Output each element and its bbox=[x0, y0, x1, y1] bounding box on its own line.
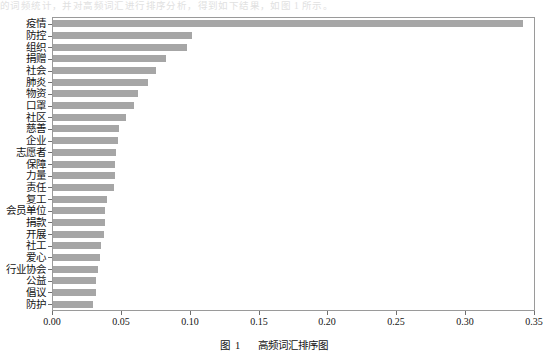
y-tick bbox=[48, 129, 52, 130]
bar-公益 bbox=[53, 277, 96, 284]
y-tick bbox=[48, 152, 52, 153]
bar-fill bbox=[53, 137, 118, 144]
y-axis-label-社工: 社工 bbox=[26, 240, 46, 251]
y-axis-label-捐款: 捐款 bbox=[26, 217, 46, 228]
x-axis-label-0.15: 0.15 bbox=[250, 316, 268, 327]
bar-力量 bbox=[53, 172, 115, 179]
bar-fill bbox=[53, 32, 192, 39]
bar-fill bbox=[53, 114, 126, 121]
x-axis-label-0.05: 0.05 bbox=[112, 316, 130, 327]
x-axis-label-0.30: 0.30 bbox=[456, 316, 474, 327]
y-tick bbox=[48, 246, 52, 247]
y-tick bbox=[48, 106, 52, 107]
y-axis-label-肺炎: 肺炎 bbox=[26, 77, 46, 88]
y-tick bbox=[48, 164, 52, 165]
bar-fill bbox=[53, 20, 523, 27]
bar-fill bbox=[53, 184, 114, 191]
y-tick bbox=[48, 47, 52, 48]
y-axis-label-物资: 物资 bbox=[26, 88, 46, 99]
figure-high-frequency-word-ranking: 疫情防控组织捐赠社会肺炎物资口罩社区慈善企业志愿者保障力量责任复工会员单位捐款开… bbox=[0, 0, 548, 357]
bar-fill bbox=[53, 67, 156, 74]
figure-caption: 图 1 高频词汇排序图 bbox=[0, 337, 548, 352]
y-axis: 疫情防控组织捐赠社会肺炎物资口罩社区慈善企业志愿者保障力量责任复工会员单位捐款开… bbox=[0, 18, 52, 310]
caption-prefix: 图 bbox=[220, 340, 230, 351]
y-tick bbox=[48, 292, 52, 293]
bar-防控 bbox=[53, 32, 192, 39]
x-tick bbox=[396, 311, 397, 315]
bar-企业 bbox=[53, 137, 118, 144]
bar-fill bbox=[53, 301, 93, 308]
y-axis-label-防控: 防控 bbox=[26, 30, 46, 41]
bar-口罩 bbox=[53, 102, 134, 109]
y-axis-label-企业: 企业 bbox=[26, 135, 46, 146]
y-tick bbox=[48, 176, 52, 177]
x-tick bbox=[259, 311, 260, 315]
y-axis-label-慈善: 慈善 bbox=[26, 123, 46, 134]
bar-组织 bbox=[53, 44, 187, 51]
y-axis-label-开展: 开展 bbox=[26, 229, 46, 240]
bar-行业协会 bbox=[53, 266, 98, 273]
x-axis-label-0.25: 0.25 bbox=[387, 316, 405, 327]
x-axis-label-0.35: 0.35 bbox=[525, 316, 543, 327]
y-tick bbox=[48, 304, 52, 305]
bar-志愿者 bbox=[53, 149, 116, 156]
y-axis-label-捐赠: 捐赠 bbox=[26, 53, 46, 64]
y-axis-label-疫情: 疫情 bbox=[26, 18, 46, 29]
y-tick bbox=[48, 94, 52, 95]
y-tick bbox=[48, 71, 52, 72]
x-tick bbox=[52, 311, 53, 315]
bar-会员单位 bbox=[53, 207, 105, 214]
bar-fill bbox=[53, 55, 166, 62]
x-axis-label-0.00: 0.00 bbox=[43, 316, 61, 327]
bar-fill bbox=[53, 79, 148, 86]
bar-fill bbox=[53, 219, 105, 226]
bar-fill bbox=[53, 207, 105, 214]
bar-捐款 bbox=[53, 219, 105, 226]
y-tick bbox=[48, 269, 52, 270]
bar-fill bbox=[53, 90, 138, 97]
bar-fill bbox=[53, 161, 115, 168]
y-tick bbox=[48, 82, 52, 83]
x-tick bbox=[534, 311, 535, 315]
x-axis-label-0.10: 0.10 bbox=[181, 316, 199, 327]
y-axis-label-志愿者: 志愿者 bbox=[16, 147, 46, 158]
y-tick bbox=[48, 187, 52, 188]
bar-责任 bbox=[53, 184, 114, 191]
bar-爱心 bbox=[53, 254, 100, 261]
y-axis-label-保障: 保障 bbox=[26, 159, 46, 170]
bar-复工 bbox=[53, 196, 107, 203]
bar-fill bbox=[53, 231, 104, 238]
bars-layer bbox=[53, 18, 535, 310]
bar-fill bbox=[53, 242, 101, 249]
y-tick bbox=[48, 211, 52, 212]
y-tick bbox=[48, 36, 52, 37]
y-axis-label-社区: 社区 bbox=[26, 112, 46, 123]
y-axis-label-力量: 力量 bbox=[26, 170, 46, 181]
bar-fill bbox=[53, 102, 134, 109]
bar-fill bbox=[53, 196, 107, 203]
y-tick bbox=[48, 281, 52, 282]
y-tick bbox=[48, 59, 52, 60]
y-tick bbox=[48, 234, 52, 235]
bar-fill bbox=[53, 277, 96, 284]
bar-fill bbox=[53, 125, 119, 132]
y-axis-label-倡议: 倡议 bbox=[26, 287, 46, 298]
y-axis-label-社会: 社会 bbox=[26, 65, 46, 76]
y-axis-label-责任: 责任 bbox=[26, 182, 46, 193]
caption-title: 高频词汇排序图 bbox=[258, 340, 328, 351]
bar-防护 bbox=[53, 301, 93, 308]
y-tick bbox=[48, 257, 52, 258]
bar-物资 bbox=[53, 90, 138, 97]
y-axis-label-爱心: 爱心 bbox=[26, 252, 46, 263]
bar-倡议 bbox=[53, 289, 96, 296]
y-tick bbox=[48, 24, 52, 25]
y-axis-label-防护: 防护 bbox=[26, 299, 46, 310]
y-tick bbox=[48, 199, 52, 200]
x-tick bbox=[327, 311, 328, 315]
bar-社会 bbox=[53, 67, 156, 74]
x-tick bbox=[190, 311, 191, 315]
bar-fill bbox=[53, 289, 96, 296]
caption-number: 1 bbox=[235, 340, 240, 351]
bar-开展 bbox=[53, 231, 104, 238]
x-tick bbox=[121, 311, 122, 315]
